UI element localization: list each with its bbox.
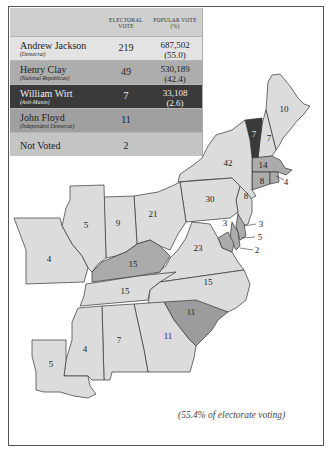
votes-ohio: 21	[149, 209, 158, 219]
electoral-votes: 219	[110, 42, 142, 53]
votes-pennsylvania: 30	[206, 194, 216, 204]
votes-tennessee: 15	[121, 286, 131, 296]
votes-delaware: 3	[259, 219, 264, 229]
popular-vote-count: 530,189	[150, 64, 200, 74]
popular-vote-header: POPULAR VOTE (%)	[150, 17, 200, 29]
votes-maryland-jackson: 3	[223, 218, 228, 228]
electoral-vote-header-line2: VOTE	[106, 23, 146, 29]
votes-illinois: 5	[84, 220, 89, 230]
popular-vote-percent: (2.6)	[150, 98, 200, 108]
turnout-caption: (55.4% of electorate voting)	[178, 410, 285, 420]
candidate-name: Henry Clay	[20, 64, 66, 75]
legend-row-wirt: William Wirt (Anti-Mason) 7 33,108 (2.6)	[10, 85, 202, 109]
popular-vote-percent: (55.0)	[150, 50, 200, 60]
votes-new-hampshire: 7	[267, 133, 272, 143]
candidate-party: (Democrat)	[20, 51, 46, 57]
votes-louisiana: 5	[49, 359, 54, 369]
popular-vote: 33,108 (2.6)	[150, 88, 200, 108]
popular-vote-count: 33,108	[150, 88, 200, 98]
legend-row-not-voted: Not Voted 2	[10, 133, 202, 156]
electoral-votes: 7	[110, 90, 142, 101]
popular-vote: 687,502 (55.0)	[150, 40, 200, 60]
legend-row-jackson: Andrew Jackson (Democrat) 219 687,502 (5…	[10, 37, 202, 61]
electoral-votes: 2	[110, 140, 142, 151]
candidate-name: Andrew Jackson	[20, 40, 86, 51]
candidate-party: (National Republican)	[20, 75, 69, 81]
votes-vermont: 7	[252, 129, 257, 139]
popular-vote: 530,189 (42.4)	[150, 64, 200, 84]
candidate-name: Not Voted	[20, 140, 60, 151]
votes-virginia: 23	[194, 243, 204, 253]
legend-table: ELECTORAL VOTE POPULAR VOTE (%) Andrew J…	[10, 8, 203, 156]
votes-georgia: 11	[164, 331, 173, 341]
votes-maine: 10	[280, 104, 290, 114]
popular-vote-header-line2: (%)	[150, 23, 200, 29]
votes-connecticut: 8	[260, 176, 265, 186]
candidate-name: John Floyd	[20, 112, 65, 123]
state-mississippi	[64, 306, 104, 380]
legend-header: ELECTORAL VOTE POPULAR VOTE (%)	[10, 8, 202, 37]
votes-mississippi: 4	[83, 344, 88, 354]
electoral-votes: 49	[110, 66, 142, 77]
votes-kentucky: 15	[129, 259, 139, 269]
legend-row-floyd: John Floyd (Independent Democrat) 11	[10, 109, 202, 133]
candidate-party: (Anti-Mason)	[20, 99, 50, 105]
popular-vote-percent: (42.4)	[150, 74, 200, 84]
votes-indiana: 9	[116, 218, 121, 228]
votes-rhode-island: 4	[284, 177, 289, 187]
votes-north-carolina: 15	[204, 277, 214, 287]
legend-row-clay: Henry Clay (National Republican) 49 530,…	[10, 61, 202, 85]
electoral-votes: 11	[110, 114, 142, 125]
votes-massachusetts: 14	[259, 160, 269, 170]
votes-maryland-clay: 5	[258, 232, 263, 242]
votes-maryland-not-voted: 2	[255, 245, 260, 255]
votes-new-york: 42	[224, 158, 233, 168]
votes-alabama: 7	[117, 335, 122, 345]
candidate-name: William Wirt	[20, 88, 73, 99]
state-rhode-island	[270, 172, 279, 184]
votes-new-jersey: 8	[244, 191, 249, 201]
votes-missouri: 4	[47, 254, 52, 264]
state-ohio	[134, 182, 186, 250]
candidate-party: (Independent Democrat)	[20, 123, 74, 129]
votes-south-carolina: 11	[187, 307, 196, 317]
electoral-vote-header: ELECTORAL VOTE	[106, 17, 146, 29]
popular-vote-count: 687,502	[150, 40, 200, 50]
